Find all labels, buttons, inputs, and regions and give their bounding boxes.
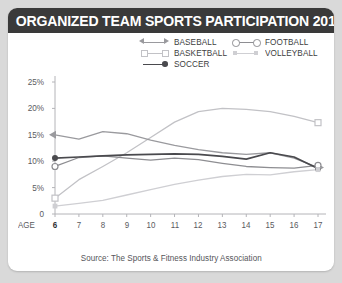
y-axis-tick-label: 15% bbox=[19, 130, 44, 140]
series-marker-volleyball-start bbox=[53, 204, 58, 209]
series-line-volleyball bbox=[55, 170, 318, 206]
chart-title-bar: ORGANIZED TEAM SPORTS PARTICIPATION 2012… bbox=[8, 8, 334, 33]
x-axis-tick-label: 12 bbox=[191, 220, 206, 230]
legend-label: BASKETBALL bbox=[174, 48, 227, 58]
page-title: ORGANIZED TEAM SPORTS PARTICIPATION 2012… bbox=[8, 13, 334, 29]
x-axis-tick-label: 6 bbox=[47, 220, 62, 230]
y-axis-tick-label: 0 bbox=[19, 209, 44, 219]
legend-item-baseball[interactable]: BASEBALL bbox=[139, 37, 230, 47]
series-line-football bbox=[55, 156, 318, 168]
legend-column-right: FOOTBALLVOLLEYBALL bbox=[230, 37, 320, 59]
x-axis-tick-label: 8 bbox=[95, 220, 110, 230]
series-marker-soccer-start bbox=[52, 155, 58, 161]
series-line-baseball bbox=[55, 132, 318, 168]
legend-item-volleyball[interactable]: VOLLEYBALL bbox=[230, 48, 320, 58]
x-axis-tick-label: 11 bbox=[167, 220, 182, 230]
x-axis-tick-label: 9 bbox=[119, 220, 134, 230]
x-axis-tick-label: 13 bbox=[215, 220, 230, 230]
series-marker-basketball-start bbox=[52, 195, 58, 201]
source-note-row: Source: The Sports & Fitness Industry As… bbox=[8, 244, 334, 271]
chart-card: ORGANIZED TEAM SPORTS PARTICIPATION 2012… bbox=[8, 8, 334, 271]
legend-label: FOOTBALL bbox=[265, 37, 308, 47]
series-marker-baseball-start bbox=[49, 131, 56, 139]
series-marker-volleyball-end bbox=[316, 167, 321, 172]
x-axis-tick-label: 10 bbox=[143, 220, 158, 230]
legend-item-basketball[interactable]: BASKETBALL bbox=[139, 48, 230, 58]
open-circle-marker-icon bbox=[230, 37, 260, 47]
x-axis-tick-label: 7 bbox=[71, 220, 86, 230]
y-axis-tick-label: 5% bbox=[19, 183, 44, 193]
double-arrow-marker-icon bbox=[139, 37, 169, 47]
y-axis-tick-label: 25% bbox=[19, 77, 44, 87]
filled-small-square-marker-icon bbox=[230, 48, 260, 58]
legend-item-football[interactable]: FOOTBALL bbox=[230, 37, 320, 47]
age-axis-label: AGE bbox=[18, 220, 35, 230]
y-axis-tick-label: 20% bbox=[19, 103, 44, 113]
chart-legend: BASEBALLBASKETBALLSOCCER FOOTBALLVOLLEYB… bbox=[8, 35, 334, 68]
x-axis-tick-label: 17 bbox=[310, 220, 325, 230]
open-square-marker-icon bbox=[139, 48, 169, 58]
y-axis-tick-label: 10% bbox=[19, 156, 44, 166]
legend-label: BASEBALL bbox=[174, 37, 217, 47]
chart-plot-area bbox=[8, 68, 334, 243]
line-chart-svg bbox=[8, 68, 334, 243]
source-note: Source: The Sports & Fitness Industry As… bbox=[81, 253, 262, 263]
x-axis-tick-label: 15 bbox=[263, 220, 278, 230]
legend-column-left: BASEBALLBASKETBALLSOCCER bbox=[139, 37, 230, 70]
x-axis-tick-label: 16 bbox=[286, 220, 301, 230]
x-axis-tick-label: 14 bbox=[239, 220, 254, 230]
series-marker-basketball-end bbox=[315, 120, 321, 126]
series-marker-football-start bbox=[52, 163, 58, 169]
legend-label: VOLLEYBALL bbox=[265, 48, 318, 58]
